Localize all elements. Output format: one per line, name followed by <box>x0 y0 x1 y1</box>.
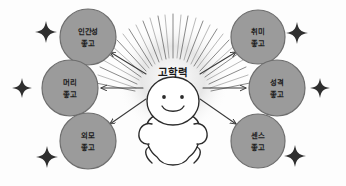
node-label-sense-line2: 좋고 <box>251 143 265 152</box>
sparkle-mid-right-icon <box>310 78 330 98</box>
node-circle-personality[interactable] <box>249 60 305 116</box>
node-label-brain-line2: 좋고 <box>63 90 77 99</box>
node-label-personality-line2: 좋고 <box>270 90 284 99</box>
node-label-sense-line1: 센스 <box>251 131 265 140</box>
node-hobby[interactable]: 취미 좋고 <box>231 10 285 64</box>
node-brain[interactable]: 머리 좋고 <box>42 60 98 116</box>
node-label-humanity-line2: 좋고 <box>81 39 95 48</box>
smiling-person-icon <box>139 77 207 165</box>
center-label: 고학력 <box>158 66 187 78</box>
node-label-hobby-line2: 좋고 <box>251 39 265 48</box>
node-label-hobby-line1: 취미 <box>251 27 265 36</box>
node-circle-sense[interactable] <box>231 114 285 168</box>
sparkle-bottom-right-icon <box>284 145 306 167</box>
sparkle-top-left-icon <box>35 21 57 43</box>
node-label-appearance-line2: 좋고 <box>81 143 95 152</box>
node-appearance[interactable]: 외모 좋고 <box>60 113 116 169</box>
node-circle-brain[interactable] <box>42 60 98 116</box>
node-label-brain-line1: 머리 <box>63 78 77 87</box>
node-label-humanity-line1: 인간성 <box>78 27 99 36</box>
diagram-svg: 고학력 인간성 좋고 취미 좋고 머리 좋고 성격 좋고 외모 좋고 <box>0 0 346 186</box>
node-circle-humanity[interactable] <box>60 9 116 65</box>
node-circle-appearance[interactable] <box>60 113 116 169</box>
node-label-appearance-line1: 외모 <box>81 131 95 140</box>
sparkle-top-right-icon <box>286 22 308 44</box>
node-sense[interactable]: 센스 좋고 <box>231 114 285 168</box>
radial-diagram-canvas: 고학력 인간성 좋고 취미 좋고 머리 좋고 성격 좋고 외모 좋고 <box>0 0 346 186</box>
sparkle-mid-left-icon <box>12 78 32 98</box>
sparkle-bottom-left-icon <box>36 146 58 168</box>
node-humanity[interactable]: 인간성 좋고 <box>60 9 116 65</box>
node-label-personality-line1: 성격 <box>270 78 284 87</box>
node-circle-hobby[interactable] <box>231 10 285 64</box>
node-personality[interactable]: 성격 좋고 <box>249 60 305 116</box>
